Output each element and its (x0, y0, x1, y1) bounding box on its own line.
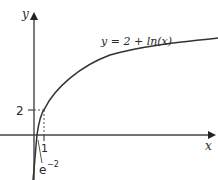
graph-canvas: y x 2 1 e −2 y = 2 + ln(x) (0, 0, 218, 180)
y-axis-label: y (21, 7, 29, 21)
curve-label: y = 2 + ln(x) (100, 35, 172, 48)
y-tick-label: 2 (16, 104, 24, 118)
log-curve (33, 38, 218, 180)
x-axis-label: x (205, 139, 212, 153)
x-tick-label: 1 (41, 142, 48, 155)
intercept-base: e (39, 163, 46, 177)
intercept-exponent: −2 (47, 160, 59, 169)
